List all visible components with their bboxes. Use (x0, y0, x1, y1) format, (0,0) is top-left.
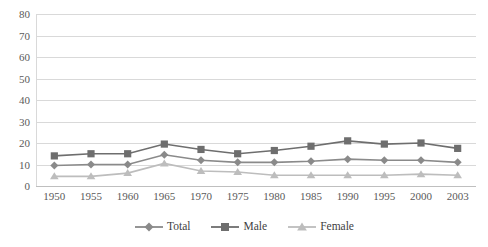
x-tick-label: 2000 (410, 190, 432, 202)
data-point (271, 147, 278, 154)
legend-marker-triangle-icon (287, 221, 317, 233)
legend-item-male[interactable]: Male (210, 221, 267, 233)
y-tick-label: 50 (4, 73, 30, 84)
data-point (197, 146, 204, 153)
series-line (54, 155, 457, 166)
data-point (161, 140, 168, 147)
legend-marker-square-icon (210, 221, 240, 233)
data-point (307, 157, 315, 165)
chart-legend: TotalMaleFemale (0, 216, 488, 238)
x-tick-label: 2003 (447, 190, 469, 202)
data-point (51, 152, 58, 159)
y-tick-label: 30 (4, 116, 30, 127)
data-point (380, 156, 388, 164)
x-tick-label: 1970 (190, 190, 212, 202)
data-point (381, 140, 388, 147)
x-tick-label: 1985 (300, 190, 322, 202)
data-point (344, 137, 351, 144)
y-tick-label: 70 (4, 30, 30, 41)
x-tick-label: 1950 (43, 190, 65, 202)
y-tick-label: 10 (4, 159, 30, 170)
legend-item-female[interactable]: Female (287, 221, 354, 233)
x-axis-line (36, 186, 476, 187)
y-tick-label: 80 (4, 9, 30, 20)
x-axis-tick-labels: 1950195519601965197019751980198519901995… (36, 190, 476, 210)
legend-label: Total (167, 221, 190, 233)
x-tick-label: 1995 (373, 190, 395, 202)
y-tick-label: 40 (4, 95, 30, 106)
data-point (50, 162, 58, 170)
legend-item-total[interactable]: Total (134, 221, 190, 233)
data-point (124, 161, 132, 169)
data-point (160, 159, 169, 166)
data-point (160, 151, 168, 159)
y-axis-tick-labels: 01020304050607080 (0, 14, 36, 186)
data-point (87, 150, 94, 157)
x-tick-label: 1975 (227, 190, 249, 202)
legend-label: Male (243, 221, 267, 233)
data-point (417, 139, 424, 146)
series-line (54, 163, 457, 176)
x-tick-label: 1965 (153, 190, 175, 202)
series-line (54, 141, 457, 156)
data-point (124, 150, 131, 157)
x-tick-label: 1960 (117, 190, 139, 202)
data-point (417, 156, 425, 164)
data-point (234, 158, 242, 166)
x-tick-label: 1990 (337, 190, 359, 202)
y-tick-label: 0 (4, 181, 30, 192)
data-point (454, 158, 462, 166)
legend-marker-diamond-icon (134, 221, 164, 233)
y-tick-label: 60 (4, 52, 30, 63)
data-point (270, 158, 278, 166)
line-chart: 01020304050607080 1950195519601965197019… (0, 0, 488, 247)
series-group (36, 14, 476, 186)
data-point (344, 155, 352, 163)
x-tick-label: 1980 (263, 190, 285, 202)
data-point (197, 156, 205, 164)
data-point (87, 161, 95, 169)
series-male (51, 137, 462, 159)
legend-label: Female (320, 221, 354, 233)
data-point (454, 145, 461, 152)
data-point (234, 150, 241, 157)
plot-area (36, 14, 476, 186)
data-point (307, 143, 314, 150)
x-tick-label: 1955 (80, 190, 102, 202)
y-tick-label: 20 (4, 138, 30, 149)
